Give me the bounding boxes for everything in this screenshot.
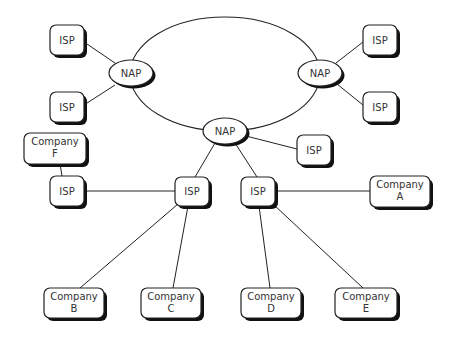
edge-isp-lower-mid-1-to-company-b [80,204,178,288]
box-label: ISP [184,186,199,197]
nodes: NAPNAPNAPISPISPISPISPISPCompanyFISPISPIS… [24,25,433,321]
edge-isp-top-left-1-to-nap-left [84,42,115,63]
edge-nap-center-to-isp-lower-mid-2 [235,143,257,177]
box-label-line-1: Company [247,291,295,302]
isp-lower-mid-1[interactable]: ISP [175,177,212,209]
isp-top-left-2[interactable]: ISP [50,92,87,125]
box-label-line-2: A [397,191,404,202]
isp-top-right-1[interactable]: ISP [363,25,400,58]
edge-isp-top-left-2-to-nap-left [84,85,115,105]
company-b[interactable]: CompanyB [44,288,107,321]
edge-isp-lower-mid-2-to-company-e [274,205,363,288]
edge-nap-right-to-isp-top-right-1 [336,42,363,63]
box-label: ISP [372,102,387,113]
edge-isp-lower-mid-2-to-company-d [259,206,270,288]
box-label: ISP [250,186,265,197]
nap-label: NAP [215,126,235,137]
edge-nap-right-to-isp-top-right-2 [337,84,363,105]
box-label: ISP [59,35,74,46]
box-label-line-2: E [363,303,369,314]
isp-lower-left[interactable]: ISP [50,176,87,209]
isp-center-right[interactable]: ISP [297,135,334,168]
box-label-line-1: Company [50,291,98,302]
nap-left[interactable]: NAP [109,60,156,89]
nap-label: NAP [121,68,141,79]
box-label: ISP [59,102,74,113]
box-label: ISP [59,186,74,197]
company-d[interactable]: CompanyD [241,288,304,321]
box-label-line-1: Company [342,291,390,302]
company-f[interactable]: CompanyF [24,133,89,167]
box-label-line-2: F [52,148,58,159]
box-label-line-1: Company [376,179,424,190]
box-label-line-2: D [267,303,275,314]
box-label-line-1: Company [31,136,79,147]
edge-nap-center-to-isp-lower-mid-1 [195,143,215,177]
isp-lower-mid-2[interactable]: ISP [241,177,278,209]
nap-center[interactable]: NAP [203,118,250,147]
backbone-ring [130,17,320,131]
box-label-line-2: B [71,303,78,314]
box-label-line-2: C [168,303,175,314]
company-e[interactable]: CompanyE [335,288,400,321]
company-a[interactable]: CompanyA [370,176,433,210]
network-diagram: NAPNAPNAPISPISPISPISPISPCompanyFISPISPIS… [0,0,451,340]
nap-right[interactable]: NAP [298,60,345,89]
backbone-ring-ellipse [130,17,320,131]
edge-isp-lower-mid-1-to-company-c [173,206,188,288]
box-label: ISP [372,35,387,46]
box-label-line-1: Company [147,291,195,302]
nap-label: NAP [310,68,330,79]
edge-nap-center-to-isp-center-right [246,136,297,149]
box-label: ISP [306,145,321,156]
company-c[interactable]: CompanyC [141,288,204,321]
isp-top-right-2[interactable]: ISP [363,92,400,125]
isp-top-left-1[interactable]: ISP [50,25,87,58]
